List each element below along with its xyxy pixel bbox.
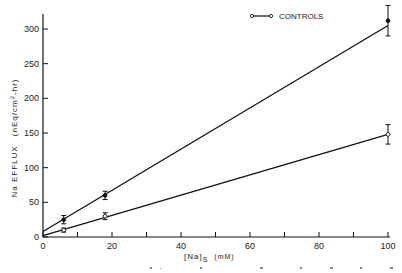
caption-fragment — [0, 264, 402, 273]
x-tick-label: 80 — [314, 241, 324, 251]
open-circle-marker — [62, 228, 66, 232]
filled-circle-marker — [386, 19, 390, 23]
y-tick-label: 150 — [24, 128, 39, 138]
open-circle-marker — [386, 132, 390, 136]
series-layer — [43, 5, 391, 235]
fit-line — [43, 134, 388, 235]
legend: CONTROLS — [250, 12, 323, 21]
series-controls — [43, 125, 391, 236]
y-tick-label: 200 — [24, 93, 39, 103]
legend-open-circle-right — [269, 14, 272, 17]
y-axis-title-unit: (nEq/cm — [10, 99, 19, 136]
legend-open-circle-left — [250, 14, 253, 17]
x-tick-label: 100 — [380, 241, 395, 251]
y-tick-label: 50 — [29, 197, 39, 207]
x-axis: 020406080100 — [40, 232, 395, 251]
x-tick-label: 40 — [176, 241, 186, 251]
x-tick-label: 20 — [107, 241, 117, 251]
x-axis-title: [Na]S(mM) — [184, 252, 235, 263]
fit-line — [43, 26, 388, 232]
open-circle-marker — [103, 214, 107, 218]
y-axis-title-unit-end: -hr) — [10, 79, 19, 95]
x-tick-label: 60 — [245, 241, 255, 251]
y-tick-label: 0 — [34, 232, 39, 242]
x-tick-label: 0 — [40, 241, 45, 251]
x-axis-title-sub: S — [203, 256, 209, 263]
legend-label: CONTROLS — [279, 12, 323, 21]
y-axis-title-main: Na EFFLUX — [10, 145, 19, 197]
y-tick-label: 250 — [24, 59, 39, 69]
chart: 020406080100 050100150200250300 CONTROLS… — [0, 0, 402, 273]
filled-circle-marker — [62, 218, 66, 222]
y-tick-label: 100 — [24, 163, 39, 173]
x-axis-title-unit: (mM) — [214, 253, 234, 261]
svg-text:Na EFFLUX (nEq/cm2-hr): Na EFFLUX (nEq/cm2-hr) — [9, 79, 19, 198]
svg-text:[Na]S(mM): [Na]S(mM) — [184, 252, 235, 263]
series-treated — [43, 5, 391, 231]
x-axis-title-main: [Na] — [184, 252, 203, 261]
filled-circle-marker — [103, 194, 107, 198]
y-tick-label: 300 — [24, 24, 39, 34]
y-axis-title: Na EFFLUX (nEq/cm2-hr) — [9, 79, 19, 198]
y-axis: 050100150200250300 — [24, 14, 48, 242]
